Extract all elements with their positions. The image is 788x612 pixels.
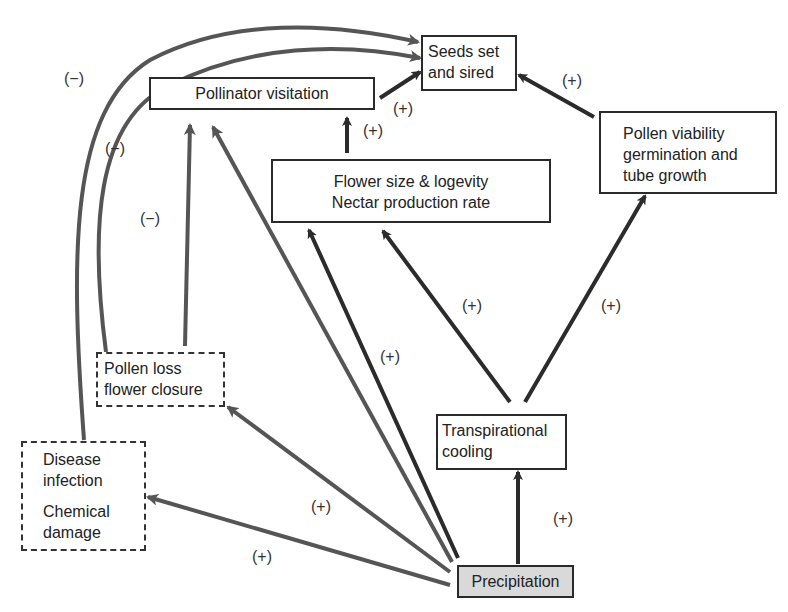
node-precipitation-text: Precipitation bbox=[471, 573, 559, 590]
node-transp-line1: Transpirational bbox=[442, 420, 565, 441]
node-disease-line4: damage bbox=[43, 522, 144, 543]
label-pollen-loss-to-seeds: (−) bbox=[105, 140, 125, 158]
node-flower-size-nectar: Flower size & logevity Nectar production… bbox=[271, 159, 551, 223]
label-transp-to-flower: (+) bbox=[462, 297, 482, 315]
label-precip-to-pollen-loss: (+) bbox=[311, 498, 331, 516]
node-viability-line2: germination and bbox=[623, 144, 775, 165]
node-viability-line1: Pollen viability bbox=[623, 123, 775, 144]
node-transpirational-cooling: Transpirational cooling bbox=[436, 414, 567, 470]
node-pollinator-text: Pollinator visitation bbox=[195, 85, 328, 102]
node-disease-chemical-damage: Disease infection Chemical damage bbox=[21, 441, 146, 551]
node-disease-line1: Disease bbox=[43, 449, 144, 470]
node-seeds-line1: Seeds set bbox=[428, 41, 515, 62]
arrow-transp-to-flower bbox=[383, 231, 510, 402]
node-seeds-set-and-sired: Seeds set and sired bbox=[421, 35, 517, 91]
node-pollen-loss-flower-closure: Pollen loss flower closure bbox=[96, 352, 225, 407]
node-pollen-viability: Pollen viability germination and tube gr… bbox=[599, 111, 777, 194]
label-flower-to-pollinator: (+) bbox=[363, 122, 383, 140]
arrow-transp-to-viability bbox=[525, 196, 645, 402]
label-precip-to-disease: (+) bbox=[252, 548, 272, 566]
label-disease-to-seeds: (−) bbox=[64, 70, 84, 88]
label-transp-to-viability: (+) bbox=[601, 297, 621, 315]
arrow-precip-to-flower bbox=[309, 230, 458, 558]
arrow-precip-to-disease bbox=[148, 497, 450, 585]
node-pollinator-visitation: Pollinator visitation bbox=[149, 77, 375, 110]
arrow-pollen-loss-to-pollinator bbox=[185, 125, 190, 346]
arrow-pollinator-to-seeds bbox=[380, 72, 420, 98]
node-seeds-line2: and sired bbox=[428, 62, 515, 83]
node-transp-line2: cooling bbox=[442, 441, 565, 462]
node-pollen-loss-line1: Pollen loss bbox=[104, 358, 223, 379]
node-disease-line3: Chemical bbox=[43, 501, 144, 522]
node-pollen-loss-line2: flower closure bbox=[104, 379, 223, 400]
arrow-viability-to-seeds bbox=[519, 75, 594, 117]
node-flower-line2: Nectar production rate bbox=[273, 192, 549, 213]
label-pollinator-to-seeds: (+) bbox=[393, 100, 413, 118]
label-viability-to-seeds: (+) bbox=[562, 72, 582, 90]
label-precip-to-transp: (+) bbox=[553, 510, 573, 528]
label-pollen-loss-to-pollinator: (−) bbox=[140, 210, 160, 228]
node-precipitation: Precipitation bbox=[457, 565, 574, 598]
label-precip-to-flower: (+) bbox=[380, 348, 400, 366]
node-viability-line3: tube growth bbox=[623, 165, 775, 186]
node-flower-line1: Flower size & logevity bbox=[273, 171, 549, 192]
node-disease-line2: infection bbox=[43, 470, 144, 491]
